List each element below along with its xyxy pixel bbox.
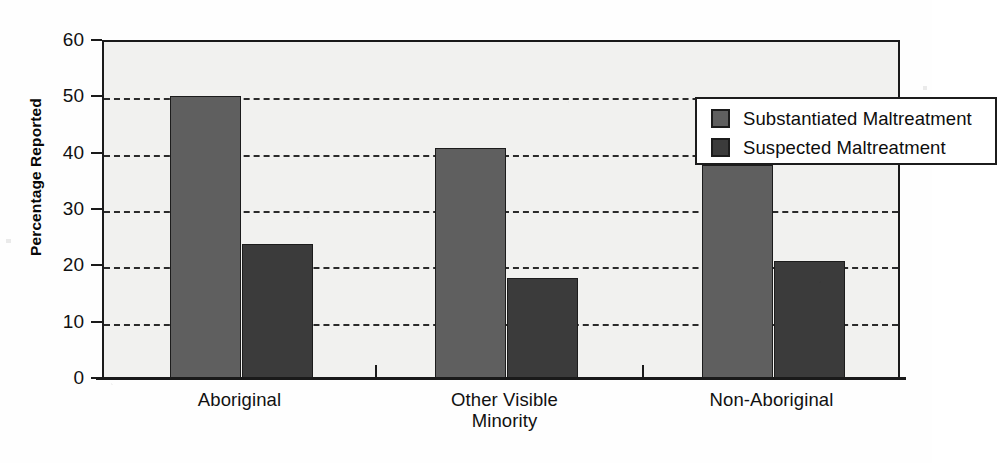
y-axis-tick <box>91 321 102 323</box>
y-axis-tick-label: 60 <box>0 30 84 49</box>
legend-swatch-substantiated-icon <box>711 109 730 128</box>
y-axis-tick-label: 0 <box>0 368 84 387</box>
y-axis-tick-label: 50 <box>0 86 84 105</box>
bar-1-0 <box>242 244 313 378</box>
y-axis-tick <box>91 208 102 210</box>
y-axis-tick-label: 30 <box>0 199 84 218</box>
x-axis-label-line: Non-Aboriginal <box>662 389 882 410</box>
bar-1-2 <box>774 261 845 378</box>
plot-area: Substantiated Maltreatment Suspected Mal… <box>102 40 900 378</box>
y-axis-tick <box>91 39 102 41</box>
legend-swatch-suspected-icon <box>711 138 730 157</box>
x-axis-label-line: Aboriginal <box>130 389 350 410</box>
y-axis-tick-label: 40 <box>0 143 84 162</box>
y-axis-tick-label: 10 <box>0 312 84 331</box>
x-axis-label-line: Minority <box>395 410 615 431</box>
y-axis-tick-label: 20 <box>0 255 84 274</box>
x-axis-label-0: Aboriginal <box>130 389 350 410</box>
legend-label-substantiated: Substantiated Maltreatment <box>743 108 972 130</box>
legend-item: Suspected Maltreatment <box>711 133 995 162</box>
legend: Substantiated Maltreatment Suspected Mal… <box>695 97 997 165</box>
x-axis-label-line: Other Visible <box>395 389 615 410</box>
legend-item: Substantiated Maltreatment <box>711 104 995 133</box>
scan-artifact <box>6 239 11 243</box>
x-axis-label-2: Non-Aboriginal <box>662 389 882 410</box>
bar-1-1 <box>507 278 578 378</box>
y-axis-tick <box>91 264 102 266</box>
bar-0-0 <box>170 96 241 378</box>
scan-artifact <box>923 86 927 90</box>
y-axis-tick <box>91 95 102 97</box>
bar-0-1 <box>435 148 506 378</box>
legend-label-suspected: Suspected Maltreatment <box>743 137 946 159</box>
x-axis-label-1: Other VisibleMinority <box>395 389 615 431</box>
bar-0-2 <box>702 165 773 378</box>
y-axis-tick <box>91 152 102 154</box>
x-axis-line <box>96 377 906 380</box>
